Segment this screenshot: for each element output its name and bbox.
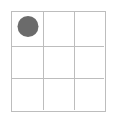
cell-r1c2[interactable] — [43, 12, 74, 46]
game-grid[interactable] — [11, 11, 106, 112]
cell-r2c2[interactable] — [43, 46, 74, 78]
cell-r3c1[interactable] — [12, 78, 43, 110]
cell-r1c1[interactable] — [12, 12, 43, 46]
cell-r2c1[interactable] — [12, 46, 43, 78]
cell-r2c3[interactable] — [74, 46, 104, 78]
cell-r3c3[interactable] — [74, 78, 104, 110]
grid-canvas — [0, 0, 116, 122]
circle-piece[interactable] — [17, 16, 38, 37]
cell-r3c2[interactable] — [43, 78, 74, 110]
cell-r1c3[interactable] — [74, 12, 104, 46]
